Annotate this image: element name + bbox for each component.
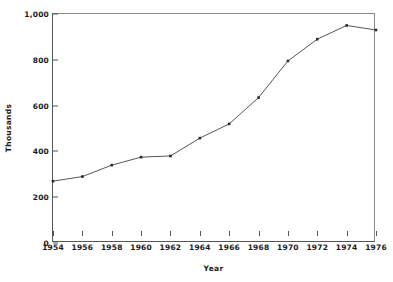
x-tick-mark xyxy=(376,231,377,236)
x-tick-label: 1960 xyxy=(130,243,152,252)
x-tick-label: 1966 xyxy=(218,243,240,252)
y-tick-label: 200 xyxy=(33,193,49,202)
x-tick-label: 1954 xyxy=(42,243,64,252)
y-tick-mark xyxy=(53,59,58,60)
x-tick-label: 1964 xyxy=(189,243,211,252)
data-point-1974 xyxy=(345,24,348,27)
data-point-1966 xyxy=(228,123,231,126)
plot-area: 02004006008001,000 195419561958196019621… xyxy=(52,13,375,242)
x-tick-label: 1974 xyxy=(336,243,358,252)
y-axis-title: Thousands xyxy=(4,104,13,152)
y-tick-label: 400 xyxy=(33,147,49,156)
y-tick-label: 1,000 xyxy=(24,10,49,19)
x-tick-label: 1970 xyxy=(277,243,299,252)
data-point-1958 xyxy=(110,164,113,167)
x-tick-label: 1958 xyxy=(101,243,123,252)
x-tick-label: 1968 xyxy=(248,243,270,252)
chart-figure: Thousands 02004006008001,000 19541956195… xyxy=(0,0,393,282)
x-tick-mark xyxy=(82,231,83,236)
x-tick-mark xyxy=(229,231,230,236)
data-point-1968 xyxy=(257,96,260,99)
data-point-1960 xyxy=(140,156,143,159)
x-axis-title: Year xyxy=(52,264,375,273)
y-tick-label: 800 xyxy=(33,55,49,64)
series-line xyxy=(53,25,376,181)
x-tick-mark xyxy=(141,231,142,236)
x-tick-mark xyxy=(259,231,260,236)
data-point-1964 xyxy=(199,137,202,140)
y-tick-mark xyxy=(53,151,58,152)
data-point-1962 xyxy=(169,155,172,158)
x-tick-label: 1976 xyxy=(365,243,387,252)
x-tick-label: 1962 xyxy=(160,243,182,252)
series-markers xyxy=(52,24,378,182)
y-tick-mark xyxy=(53,14,58,15)
x-tick-mark xyxy=(112,231,113,236)
y-tick-mark xyxy=(53,105,58,106)
x-tick-mark xyxy=(347,231,348,236)
y-tick-mark xyxy=(53,197,58,198)
x-tick-label: 1956 xyxy=(72,243,94,252)
data-point-1972 xyxy=(316,38,319,41)
data-point-1970 xyxy=(287,60,290,63)
data-point-1976 xyxy=(375,29,378,32)
x-tick-label: 1972 xyxy=(306,243,328,252)
line-series xyxy=(53,14,376,243)
y-tick-label: 600 xyxy=(33,101,49,110)
data-point-1954 xyxy=(52,180,55,183)
x-tick-mark xyxy=(317,231,318,236)
x-tick-mark xyxy=(170,231,171,236)
data-point-1956 xyxy=(81,175,84,178)
x-tick-mark xyxy=(200,231,201,236)
x-tick-mark xyxy=(53,231,54,236)
x-tick-mark xyxy=(288,231,289,236)
